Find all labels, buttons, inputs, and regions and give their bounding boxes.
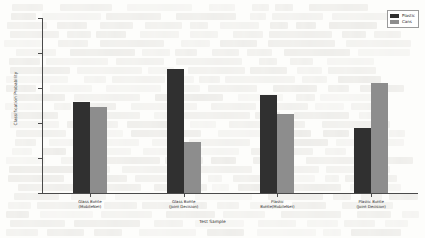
bar-plastic bbox=[354, 128, 371, 193]
bar-plastic bbox=[167, 69, 184, 193]
legend-swatch-cans bbox=[390, 20, 399, 23]
y-axis-tick-mark bbox=[38, 193, 42, 194]
x-axis-tick-mark bbox=[90, 193, 91, 197]
bar-cans bbox=[371, 83, 388, 193]
bar-plastic bbox=[73, 102, 90, 193]
legend-label: Cans bbox=[402, 20, 412, 24]
y-axis-tick-mark bbox=[38, 18, 42, 19]
x-axis-category-label: Glass Bottle (Joint Decision) bbox=[137, 199, 231, 209]
chart-legend: PlasticCans bbox=[387, 10, 419, 28]
legend-item-cans: Cans bbox=[390, 19, 415, 25]
x-axis-line bbox=[42, 193, 418, 194]
y-axis-tick-mark bbox=[38, 123, 42, 124]
x-axis-tick-mark bbox=[184, 193, 185, 197]
bar-group bbox=[231, 18, 325, 193]
legend-swatch-plastic bbox=[390, 14, 399, 17]
y-axis-tick-mark bbox=[38, 158, 42, 159]
bar-cans bbox=[184, 142, 201, 193]
legend-label: Plastic bbox=[402, 14, 415, 18]
y-axis-title: Classification Probability bbox=[13, 54, 18, 144]
bar-chart-figure: Classification Probability Glass Bottle … bbox=[0, 0, 425, 238]
y-axis-tick-mark bbox=[38, 53, 42, 54]
bar-plastic bbox=[260, 95, 277, 193]
x-axis-tick-mark bbox=[277, 193, 278, 197]
x-axis-tick-mark bbox=[371, 193, 372, 197]
x-axis-category-label: Glass Bottle (MobileNet) bbox=[43, 199, 137, 209]
x-axis-category-label: Plastic Bottle(MobileNet) bbox=[231, 199, 325, 209]
bar-cans bbox=[277, 114, 294, 193]
bar-cans bbox=[90, 107, 107, 193]
bar-group bbox=[43, 18, 137, 193]
plot-area bbox=[43, 18, 418, 193]
bar-group bbox=[324, 18, 418, 193]
bar-group bbox=[137, 18, 231, 193]
x-axis-category-label: Plastic Bottle (Joint Decision) bbox=[324, 199, 418, 209]
y-axis-tick-mark bbox=[38, 88, 42, 89]
x-axis-title: Test Sample bbox=[0, 219, 425, 224]
